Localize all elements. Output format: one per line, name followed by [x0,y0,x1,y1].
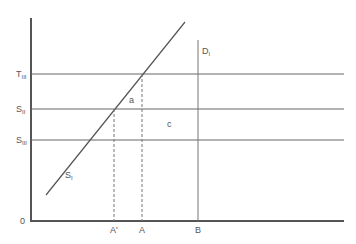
s2-label: SII [16,104,26,115]
region-c-label: c [167,119,172,129]
diagram: TIII SII SIII 0 A' A B SI DI a c [0,0,356,244]
b-label: B [195,225,201,235]
demand-curve-label: DI [202,46,211,57]
a-prime-label: A' [110,225,118,235]
t3-label: TIII [16,69,27,80]
region-a-label: a [129,95,134,105]
a-label: A [139,225,145,235]
origin-label: 0 [20,216,25,226]
s3-label: SIII [16,135,27,146]
supply-curve-label: SI [65,170,73,181]
